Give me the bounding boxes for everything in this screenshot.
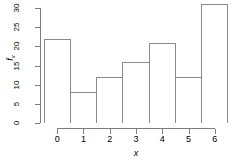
- y-tick-mark: [35, 46, 40, 47]
- histogram-bar: [201, 4, 228, 123]
- histogram-chart: 051015202530 fx 0123456 x: [0, 0, 236, 163]
- y-tick-label: 20: [13, 42, 21, 51]
- histogram-bar: [96, 77, 123, 123]
- plot-area: [44, 8, 228, 123]
- y-tick-mark: [35, 27, 40, 28]
- x-tick-label: 0: [49, 134, 65, 144]
- histogram-bar: [149, 43, 176, 124]
- x-tick-label: 5: [181, 134, 197, 144]
- bar-series: [44, 8, 228, 123]
- y-axis-title-subscript: x: [10, 55, 16, 58]
- y-axis-title-symbol: f: [5, 58, 15, 61]
- y-tick-label: 30: [13, 4, 21, 13]
- histogram-bar: [44, 39, 71, 123]
- y-tick-label: 10: [13, 80, 21, 89]
- x-tick-label: 3: [128, 134, 144, 144]
- x-tick-label-container: 0123456: [44, 134, 228, 146]
- x-tick-label: 6: [207, 134, 223, 144]
- y-axis-title: fx: [6, 55, 18, 61]
- x-tick-label: 2: [102, 134, 118, 144]
- y-tick-label: 15: [13, 61, 21, 70]
- y-tick-mark: [35, 123, 40, 124]
- x-tick-label: 1: [75, 134, 91, 144]
- y-tick-mark: [35, 85, 40, 86]
- y-tick-mark: [35, 66, 40, 67]
- histogram-bar: [122, 62, 149, 123]
- histogram-bar: [70, 92, 97, 123]
- y-tick-mark: [35, 104, 40, 105]
- y-axis: 051015202530 fx: [0, 0, 44, 163]
- x-axis-title: x: [44, 148, 228, 158]
- histogram-bar: [175, 77, 202, 123]
- y-tick-label: 25: [13, 23, 21, 32]
- y-tick-label: 0: [13, 121, 21, 125]
- y-tick-mark: [35, 8, 40, 9]
- y-tick-label: 5: [13, 102, 21, 106]
- y-axis-line: [40, 8, 41, 123]
- x-tick-label: 4: [154, 134, 170, 144]
